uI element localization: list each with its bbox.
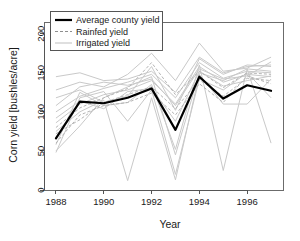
chart-legend: Average county yieldRainfed yieldIrrigat… [50,11,162,50]
legend-label-0: Average county yield [76,15,159,25]
x-tick-label-1: 1990 [93,196,114,207]
x-tick-label-2: 1992 [141,196,162,207]
y-axis-title: Corn yield [bushles/acre] [7,47,19,163]
legend-label-1: Rainfed yield [76,27,128,37]
x-axis-title: Year [159,218,181,230]
x-tick-label-0: 1988 [45,196,66,207]
x-tick-label-4: 1996 [237,196,258,207]
y-tick-label-3: 150 [35,65,46,81]
y-tick-label-2: 100 [35,104,46,120]
legend-label-2: Irrigated yield [76,38,130,48]
y-tick-label-0: 0 [35,187,46,192]
y-tick-label-1: 50 [35,146,46,157]
corn-yield-chart: 050100150200 19881990199219941996 Corn y… [0,0,300,241]
chart-svg: 050100150200 19881990199219941996 Corn y… [0,0,300,241]
x-tick-label-3: 1994 [189,196,210,207]
y-tick-label-4: 200 [35,26,46,42]
